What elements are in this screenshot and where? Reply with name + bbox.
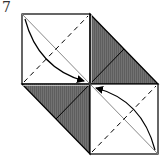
origami-diagram bbox=[0, 0, 166, 163]
bottom-left-shaded-triangle bbox=[22, 84, 90, 154]
top-right-shaded-triangle bbox=[90, 14, 158, 84]
bottom-right-square bbox=[90, 84, 158, 154]
top-left-square bbox=[22, 14, 90, 84]
center-point bbox=[89, 83, 91, 85]
